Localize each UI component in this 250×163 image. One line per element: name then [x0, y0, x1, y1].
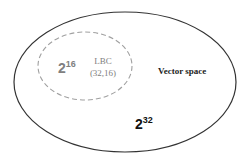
lbc-params-label: (32,16): [90, 68, 116, 78]
inner-size-label: 216: [58, 59, 76, 76]
venn-diagram: 216 LBC (32,16) Vector space 232: [0, 0, 250, 163]
lbc-dashed-ellipse: [38, 32, 132, 100]
vector-space-label: Vector space: [158, 66, 206, 76]
lbc-label: LBC: [94, 56, 112, 66]
vector-space-ellipse: [14, 12, 236, 152]
outer-size-label: 232: [135, 115, 153, 132]
